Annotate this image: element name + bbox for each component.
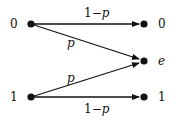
output-node-0 <box>140 20 147 27</box>
edge-label-lower-p: p <box>67 71 75 85</box>
binary-erasure-channel-diagram: 0 1 0 e 1 1−p p p 1−p <box>0 0 176 126</box>
output-node-e <box>140 57 147 64</box>
input-node-0 <box>27 20 34 27</box>
input-node-1 <box>27 93 34 100</box>
edge-label-upper-p: p <box>67 36 75 50</box>
output-label-1: 1 <box>158 90 166 104</box>
edge-0-to-e <box>31 24 139 59</box>
edge-label-bottom-prefix: 1− <box>84 102 102 116</box>
output-label-e: e <box>158 54 165 68</box>
edge-label-top-1-minus-p: 1−p <box>84 6 110 20</box>
output-label-0: 0 <box>158 17 166 31</box>
output-node-1 <box>140 93 147 100</box>
edge-label-bottom-1-minus-p: 1−p <box>84 102 110 116</box>
edge-1-to-e <box>31 63 139 97</box>
input-label-0: 0 <box>10 17 18 31</box>
input-label-1: 1 <box>10 90 18 104</box>
edge-label-top-var: p <box>102 6 110 20</box>
edge-label-bottom-var: p <box>102 102 110 116</box>
edge-label-top-prefix: 1− <box>84 6 102 20</box>
